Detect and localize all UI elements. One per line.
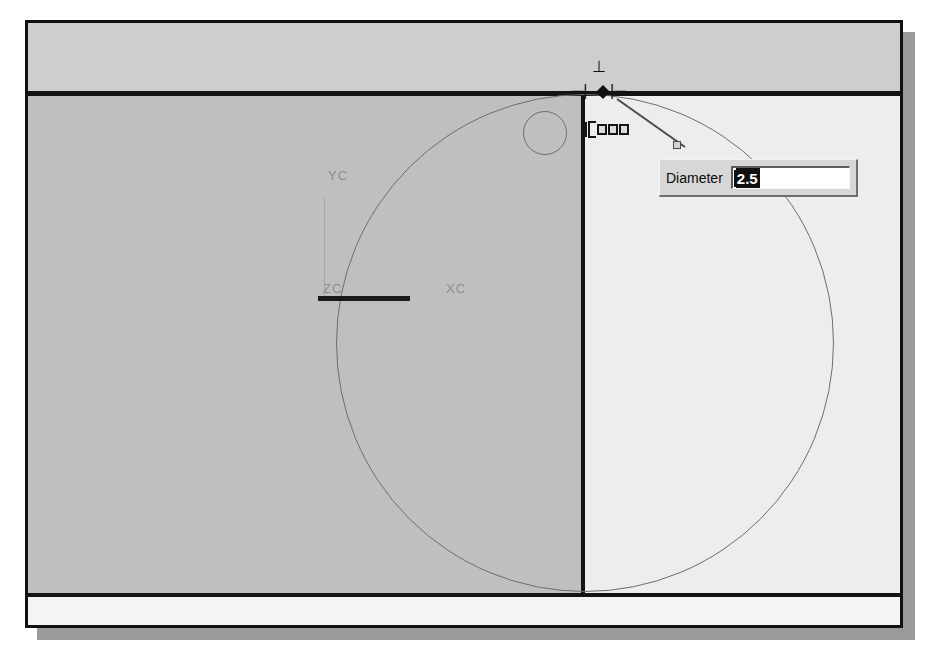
leader-handle[interactable] (673, 141, 681, 149)
wcs-label-yc: YC (328, 168, 348, 183)
diameter-input[interactable]: 2.5 (731, 166, 850, 189)
snap-left-icon: ─| (572, 83, 588, 99)
diameter-value: 2.5 (736, 168, 760, 189)
diameter-label: Diameter (666, 170, 723, 186)
model-edge-bottom (28, 593, 900, 597)
cad-application-window: YC ZC XC ⊥ ─| |─ Diameter 2.5 (25, 20, 903, 628)
graphics-viewport[interactable]: YC ZC XC ⊥ ─| |─ Diameter 2.5 (28, 23, 900, 625)
viewport-bottom-band (28, 593, 900, 625)
snap-right-icon: |─ (610, 83, 626, 99)
wcs-axis-x (318, 296, 410, 301)
model-edge-top (28, 91, 900, 96)
diameter-input-dialog[interactable]: Diameter 2.5 (659, 159, 858, 197)
viewport-top-band (28, 23, 900, 91)
wcs-label-xc: XC (446, 281, 466, 296)
wcs-label-zc: ZC (323, 281, 342, 296)
snap-up-icon: ⊥ (592, 59, 606, 75)
constraint-chips-icon (584, 121, 629, 138)
point-marker-icon (596, 85, 610, 99)
cursor-snap-indicator: ⊥ ─| |─ (548, 59, 668, 159)
